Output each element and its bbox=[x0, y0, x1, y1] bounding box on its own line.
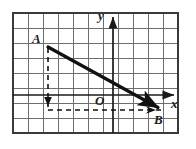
origin-label: O bbox=[95, 94, 104, 107]
x-axis-label: x bbox=[171, 97, 178, 110]
y-axis-label: y bbox=[98, 9, 104, 22]
point-label-a: A bbox=[32, 32, 41, 45]
coordinate-grid-figure: y x O A B bbox=[0, 0, 196, 149]
point-label-b: B bbox=[154, 113, 163, 126]
point-markers bbox=[47, 46, 49, 48]
